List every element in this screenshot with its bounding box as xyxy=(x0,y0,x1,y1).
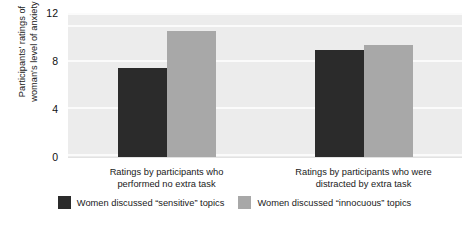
y-tick-4: 4 xyxy=(18,103,58,115)
legend-item-sensitive: Women discussed “sensitive” topics xyxy=(58,196,225,209)
legend-label-sensitive: Women discussed “sensitive” topics xyxy=(77,198,225,208)
legend-label-innocuous: Women discussed “innocuous” topics xyxy=(257,198,411,208)
legend-item-innocuous: Women discussed “innocuous” topics xyxy=(238,196,411,209)
x-axis-line xyxy=(68,157,462,158)
chart-legend: Women discussed “sensitive” topics Women… xyxy=(0,196,469,209)
x-category-label-2: Ratings by participants who were distrac… xyxy=(265,166,462,190)
y-axis-tick-labels: 0 4 8 12 xyxy=(0,13,62,157)
x-category-label-1: Ratings by participants who performed no… xyxy=(68,166,265,190)
plot-area xyxy=(68,13,462,157)
bar-group1-innocuous xyxy=(167,31,216,157)
y-tick-8: 8 xyxy=(18,55,58,67)
y-tick-12: 12 xyxy=(18,7,58,19)
bar-group1-sensitive xyxy=(118,68,167,157)
bar-group2-innocuous xyxy=(364,45,413,157)
x-axis-category-labels: Ratings by participants who performed no… xyxy=(68,166,462,190)
gridline-12 xyxy=(68,13,462,15)
legend-swatch-icon-sensitive xyxy=(58,196,71,209)
bar-group2-sensitive xyxy=(315,50,364,157)
bar-chart-figure: Participants' ratings of woman's level o… xyxy=(0,0,469,234)
legend-swatch-icon-innocuous xyxy=(238,196,251,209)
gridline-11 xyxy=(68,25,462,27)
y-tick-0: 0 xyxy=(18,151,58,163)
